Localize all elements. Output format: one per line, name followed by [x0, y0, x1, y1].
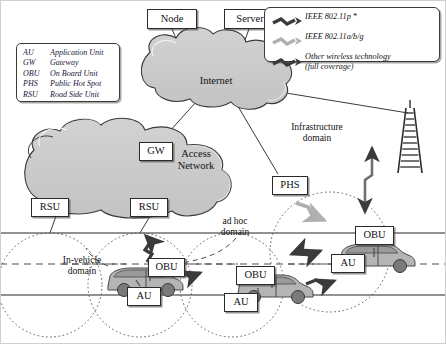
adhoc-domain-line2: domain	[204, 227, 266, 238]
abbr-key: OBU	[23, 69, 50, 79]
wireless-legend: IEEE 802.11p * IEEE 802.11a/b/g Other wi…	[264, 7, 440, 62]
infrastructure-domain-line2: domain	[272, 133, 362, 144]
obu-right-box[interactable]: OBU	[355, 226, 394, 245]
wireless-legend-label: IEEE 802.11p *	[305, 12, 357, 22]
au-middle-box[interactable]: AU	[224, 293, 258, 312]
abbreviation-row: OBU On Board Unit	[23, 69, 104, 79]
obu-middle-box[interactable]: OBU	[236, 266, 275, 285]
abbr-key: PHS	[23, 79, 50, 89]
infrastructure-domain-label: Infrastructure domain	[272, 122, 362, 144]
invehicle-domain-line1: In-vehicle	[48, 255, 116, 266]
wireless-link-phs-obu	[296, 203, 324, 220]
wireless-legend-sublabel: (full coverage)	[305, 62, 391, 72]
au-left-box[interactable]: AU	[127, 287, 161, 306]
access-network-line1: Access	[168, 148, 224, 160]
link-rsu-left-road	[50, 216, 56, 233]
adhoc-domain-label: ad hoc domain	[204, 216, 266, 238]
gateway-box[interactable]: GW	[139, 142, 173, 161]
link-internet-tower	[280, 92, 408, 113]
phs-box[interactable]: PHS	[272, 176, 308, 195]
vanet-architecture-diagram: Internet Access Network Infrastructure d…	[0, 0, 446, 344]
abbr-meaning: On Board Unit	[50, 69, 104, 79]
access-network-line2: Network	[168, 160, 224, 172]
link-rsu-right-road	[140, 216, 150, 233]
node-box[interactable]: Node	[147, 9, 197, 29]
zigzag-arrow-dark-icon	[271, 52, 305, 72]
adhoc-pointer	[186, 238, 236, 262]
access-network-label: Access Network	[168, 148, 224, 172]
wireless-legend-row: IEEE 802.11a/b/g	[271, 32, 434, 51]
abbr-meaning: Road Side Unit	[50, 90, 104, 100]
abbreviation-table: AU Application Unit GW Gateway OBU On Bo…	[23, 48, 104, 100]
abbreviation-legend: AU Application Unit GW Gateway OBU On Bo…	[16, 43, 120, 102]
rsu-left-box[interactable]: RSU	[31, 198, 69, 217]
wireless-link-adhoc-pair	[292, 250, 320, 255]
wireless-legend-row: IEEE 802.11p *	[271, 12, 434, 31]
abbreviation-row: RSU Road Side Unit	[23, 90, 104, 100]
abbreviation-row: GW Gateway	[23, 58, 104, 68]
infrastructure-domain-line1: Infrastructure	[272, 122, 362, 133]
adhoc-domain-line1: ad hoc	[204, 216, 266, 227]
wireless-link-tower-full-coverage	[365, 148, 372, 212]
abbr-key: RSU	[23, 90, 50, 100]
abbr-meaning: Application Unit	[50, 48, 104, 58]
wireless-legend-label: IEEE 802.11a/b/g	[305, 32, 364, 42]
abbr-meaning: Public Hot Spot	[50, 79, 104, 89]
invehicle-domain-label: In-vehicle domain	[48, 255, 116, 277]
wireless-legend-text-block: Other wireless technology (full coverage…	[305, 52, 391, 73]
wireless-link-v2v-middle	[306, 280, 334, 285]
abbr-key: GW	[23, 58, 50, 68]
zigzag-arrow-light-icon	[271, 32, 305, 51]
wireless-legend-row: Other wireless technology (full coverage…	[271, 52, 434, 73]
wireless-legend-label: Other wireless technology	[305, 52, 391, 62]
abbreviation-row: AU Application Unit	[23, 48, 104, 58]
internet-label: Internet	[186, 75, 246, 87]
au-right-box[interactable]: AU	[331, 254, 365, 273]
invehicle-domain-line2: domain	[48, 266, 116, 277]
obu-left-box[interactable]: OBU	[148, 258, 185, 277]
abbreviation-row: PHS Public Hot Spot	[23, 79, 104, 89]
antenna-tower-icon	[398, 100, 422, 173]
abbr-key: AU	[23, 48, 50, 58]
rsu-right-box[interactable]: RSU	[130, 198, 168, 217]
abbr-meaning: Gateway	[50, 58, 104, 68]
zigzag-arrow-dark-icon	[271, 12, 305, 31]
